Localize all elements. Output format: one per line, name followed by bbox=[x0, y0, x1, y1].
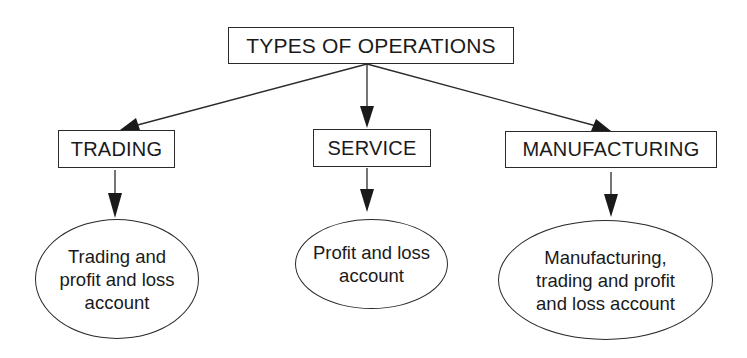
account-text: Manufacturing, trading and profit and lo… bbox=[536, 246, 675, 315]
category-label: MANUFACTURING bbox=[522, 138, 699, 161]
account-node-service: Profit and loss account bbox=[295, 219, 448, 309]
account-line: Trading and bbox=[59, 245, 174, 268]
arrow-manufacturing-to-account bbox=[604, 172, 618, 217]
category-node-service: SERVICE bbox=[313, 129, 431, 167]
account-line: and loss account bbox=[536, 292, 675, 315]
arrow-trading-to-account bbox=[108, 170, 122, 218]
root-node-types-of-operations: TYPES OF OPERATIONS bbox=[228, 27, 514, 64]
account-line: profit and loss bbox=[59, 268, 174, 291]
account-text: Profit and loss account bbox=[313, 241, 430, 287]
category-label: SERVICE bbox=[328, 137, 417, 160]
account-text: Trading and profit and loss account bbox=[59, 245, 174, 314]
root-node-label: TYPES OF OPERATIONS bbox=[246, 34, 496, 58]
account-line: trading and profit bbox=[536, 269, 675, 292]
arrow-root-to-manufacturing bbox=[367, 64, 611, 131]
arrowhead-icon bbox=[604, 194, 618, 217]
arrow-service-to-account bbox=[360, 168, 374, 212]
arrowhead-icon bbox=[360, 189, 374, 212]
arrow-root-to-service bbox=[360, 64, 374, 128]
diagram-canvas: TYPES OF OPERATIONS TRADING SERVICE MANU… bbox=[0, 0, 747, 358]
arrowhead-icon bbox=[591, 119, 611, 131]
category-label: TRADING bbox=[71, 138, 162, 161]
account-line: Profit and loss bbox=[313, 241, 430, 264]
account-line: Manufacturing, bbox=[536, 246, 675, 269]
account-node-manufacturing: Manufacturing, trading and profit and lo… bbox=[498, 220, 713, 340]
account-node-trading: Trading and profit and loss account bbox=[35, 219, 199, 339]
arrowhead-icon bbox=[120, 118, 140, 130]
account-line: account bbox=[313, 264, 430, 287]
arrow-root-to-trading bbox=[120, 64, 367, 130]
arrowhead-icon bbox=[360, 106, 374, 128]
arrowhead-icon bbox=[108, 193, 122, 218]
account-line: account bbox=[59, 291, 174, 314]
category-node-manufacturing: MANUFACTURING bbox=[505, 131, 717, 168]
category-node-trading: TRADING bbox=[58, 130, 175, 168]
